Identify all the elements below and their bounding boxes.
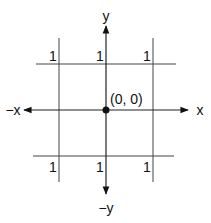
y-positive-label: y [103,8,110,24]
coordinate-diagram: (0, 0) y −y −x x 1 1 1 1 1 1 [0,0,211,223]
grid-label-top-center: 1 [96,48,104,64]
grid-label-bottom-right: 1 [143,159,151,175]
origin-label: (0, 0) [110,91,143,107]
x-negative-label: −x [5,102,20,118]
grid-label-bottom-left: 1 [49,159,57,175]
grid-label-bottom-center: 1 [96,159,104,175]
grid-label-top-right: 1 [143,48,151,64]
x-positive-label: x [197,102,204,118]
grid-label-top-left: 1 [49,48,57,64]
origin-dot [103,107,110,114]
y-negative-label: −y [98,200,113,216]
